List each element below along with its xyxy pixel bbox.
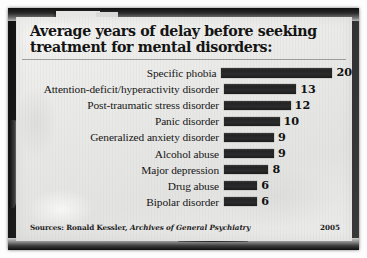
year-label: 2005 [320,223,340,232]
bar-track: 20 [221,65,352,81]
bar [224,149,274,158]
bar [224,101,291,110]
chart-row: Panic disorder10 [16,113,352,129]
bar-value-label: 6 [261,196,269,207]
bar-value-label: 9 [278,132,286,143]
bar-value-label: 9 [278,148,286,159]
chart-title-line-2: treatment for mental disorders: [30,40,335,56]
chart-row: Major depression8 [16,162,352,178]
bar-track: 6 [224,194,352,210]
bar [224,181,257,190]
bar-value-label: 8 [272,164,280,175]
chart-footer: Sources: Ronald Kessler, Archives of Gen… [30,223,340,232]
category-label: Post-traumatic stress disorder [16,99,224,111]
bar-track: 10 [224,113,352,129]
category-label: Panic disorder [16,115,224,127]
bar [224,165,268,174]
bar-value-label: 20 [336,67,352,78]
title-divider [22,59,346,60]
category-label: Generalized anxiety disorder [16,131,224,143]
scanned-infographic: Average years of delay before seeking tr… [0,0,367,258]
chart-row: Alcohol abuse9 [16,145,352,161]
bar [224,117,280,126]
bar [221,68,332,77]
source-journal: Archives of General Psychiatry [130,223,250,232]
category-label: Major depression [16,164,224,176]
chart-row: Drug abuse6 [16,178,352,194]
bar-value-label: 12 [295,100,311,111]
bar-track: 9 [224,129,352,145]
bar-track: 6 [224,178,352,194]
chart-row: Attention-deficit/hyperactivity disorder… [16,81,352,97]
category-label: Attention-deficit/hyperactivity disorder [16,83,224,95]
chart-row: Bipolar disorder6 [16,194,352,210]
bar-track: 8 [224,162,352,178]
category-label: Drug abuse [16,180,224,192]
bar-value-label: 6 [261,180,269,191]
bar-value-label: 10 [284,116,300,127]
infographic-card: Average years of delay before seeking tr… [16,17,352,241]
bar-track: 9 [224,145,352,161]
source-note: Sources: Ronald Kessler, Archives of Gen… [30,223,250,232]
bar [224,84,296,93]
bar-track: 12 [224,97,352,113]
chart-row: Specific phobia20 [16,65,352,81]
chart-title: Average years of delay before seeking tr… [30,24,335,55]
chart-row: Generalized anxiety disorder9 [16,129,352,145]
category-label: Bipolar disorder [16,196,224,208]
chart-title-line-1: Average years of delay before seeking [30,23,317,39]
category-label: Specific phobia [16,67,221,79]
bar-track: 13 [224,81,352,97]
category-label: Alcohol abuse [16,148,224,160]
bar-value-label: 13 [300,84,316,95]
bar-chart: Specific phobia20Attention-deficit/hyper… [16,65,352,210]
bar [224,197,257,206]
source-prefix: Sources: Ronald Kessler, [30,223,127,232]
chart-row: Post-traumatic stress disorder12 [16,97,352,113]
bar [224,133,274,142]
